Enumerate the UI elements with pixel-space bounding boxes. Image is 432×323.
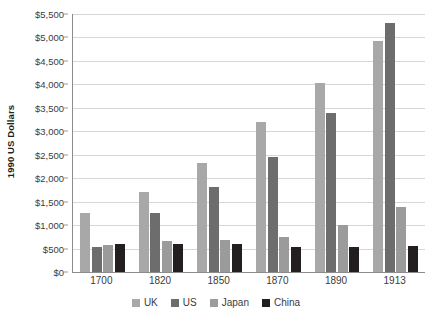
bar-japan-1890 xyxy=(338,225,348,272)
bar-china-1870 xyxy=(291,247,301,272)
y-axis-tick-mark xyxy=(64,272,68,273)
bar-japan-1850 xyxy=(220,240,230,272)
bar-japan-1700 xyxy=(103,245,113,272)
bar-china-1913 xyxy=(408,246,418,272)
y-axis-tick-label: $1,500 xyxy=(35,196,64,207)
bars-layer xyxy=(73,14,425,272)
bar-us-1820 xyxy=(150,213,160,272)
y-axis-tick-label: $3,000 xyxy=(35,126,64,137)
bar-us-1700 xyxy=(92,247,102,272)
bar-us-1890 xyxy=(326,113,336,272)
bar-us-1850 xyxy=(209,187,219,272)
legend-swatch-icon xyxy=(132,299,140,307)
y-axis-tick-mark xyxy=(64,14,68,15)
y-axis-tick-label: $5,000 xyxy=(35,32,64,43)
y-axis-tick-mark xyxy=(64,107,68,108)
legend-label: UK xyxy=(144,297,158,308)
y-axis-tick-label: $4,500 xyxy=(35,55,64,66)
y-axis-tick-mark xyxy=(64,37,68,38)
legend-label: US xyxy=(183,297,197,308)
x-axis-tick-label: 1890 xyxy=(307,275,366,286)
legend-swatch-icon xyxy=(210,299,218,307)
x-axis-tick-label: 1850 xyxy=(189,275,248,286)
x-axis-tick-label: 1913 xyxy=(365,275,424,286)
y-axis-title-label: 1990 US Dollars xyxy=(6,105,17,178)
y-axis-tick-mark xyxy=(64,154,68,155)
legend-swatch-icon xyxy=(171,299,179,307)
bar-uk-1700 xyxy=(80,213,90,272)
bar-group xyxy=(73,14,132,272)
y-axis-tick-mark xyxy=(64,225,68,226)
y-axis-tick-labels: $0$500$1,000$1,500$2,000$2,500$3,000$3,5… xyxy=(20,14,68,272)
legend-item-uk[interactable]: UK xyxy=(132,297,158,308)
y-axis-tick-mark xyxy=(64,131,68,132)
y-axis-tick-mark xyxy=(64,84,68,85)
bar-uk-1850 xyxy=(197,163,207,272)
chart-legend: UKUSJapanChina xyxy=(0,297,432,308)
y-axis-tick-label: $0 xyxy=(53,267,64,278)
bar-us-1870 xyxy=(268,157,278,272)
y-axis-title: 1990 US Dollars xyxy=(2,0,20,283)
x-axis-tick-labels: 170018201850187018901913 xyxy=(72,275,424,286)
legend-item-japan[interactable]: Japan xyxy=(210,297,249,308)
legend-label: Japan xyxy=(222,297,249,308)
y-axis-tick-label: $3,500 xyxy=(35,102,64,113)
bar-china-1850 xyxy=(232,244,242,272)
y-axis-tick-mark xyxy=(64,201,68,202)
y-axis-tick-label: $5,500 xyxy=(35,9,64,20)
y-axis-tick-mark xyxy=(64,248,68,249)
bar-group xyxy=(308,14,367,272)
x-axis-tick-label: 1700 xyxy=(72,275,131,286)
bar-china-1820 xyxy=(173,244,183,272)
y-axis-tick-label: $500 xyxy=(43,243,64,254)
bar-uk-1890 xyxy=(315,83,325,272)
y-axis-tick-label: $2,500 xyxy=(35,149,64,160)
bar-us-1913 xyxy=(385,23,395,272)
y-axis-tick-label: $2,000 xyxy=(35,173,64,184)
bar-uk-1870 xyxy=(256,122,266,272)
bar-group xyxy=(132,14,191,272)
bar-group xyxy=(366,14,425,272)
bar-china-1700 xyxy=(115,244,125,272)
x-axis-tick-label: 1820 xyxy=(131,275,190,286)
legend-label: China xyxy=(274,297,300,308)
bar-japan-1820 xyxy=(162,241,172,272)
y-axis-tick-mark xyxy=(64,178,68,179)
bar-uk-1913 xyxy=(373,41,383,272)
bar-uk-1820 xyxy=(139,192,149,272)
legend-item-china[interactable]: China xyxy=(262,297,300,308)
x-axis-tick-label: 1870 xyxy=(248,275,307,286)
bar-group xyxy=(190,14,249,272)
legend-item-us[interactable]: US xyxy=(171,297,197,308)
y-axis-tick-label: $4,000 xyxy=(35,79,64,90)
legend-swatch-icon xyxy=(262,299,270,307)
bar-japan-1913 xyxy=(396,207,406,272)
plot-area xyxy=(72,14,425,273)
bar-chart: 1990 US Dollars $0$500$1,000$1,500$2,000… xyxy=(0,0,432,323)
y-axis-tick-label: $1,000 xyxy=(35,220,64,231)
bar-japan-1870 xyxy=(279,237,289,272)
bar-china-1890 xyxy=(349,247,359,272)
bar-group xyxy=(249,14,308,272)
y-axis-tick-mark xyxy=(64,60,68,61)
